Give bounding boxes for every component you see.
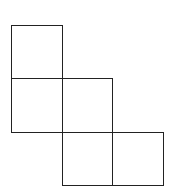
- square-1: [11, 78, 63, 132]
- square-net-diagram: [0, 0, 172, 195]
- square-4: [112, 132, 164, 186]
- square-0: [11, 25, 63, 79]
- square-2: [62, 78, 114, 132]
- square-3: [62, 132, 114, 186]
